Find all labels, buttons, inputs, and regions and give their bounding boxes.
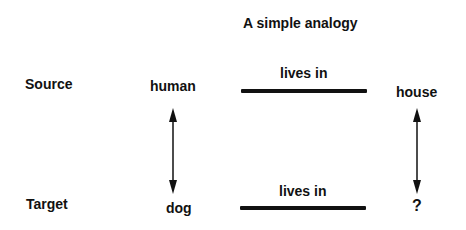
- source-relation-line: [241, 89, 367, 93]
- double-arrow-icon: [410, 108, 424, 194]
- target-row-label: Target: [26, 196, 68, 212]
- source-relation-label: lives in: [280, 65, 327, 81]
- diagram-title: A simple analogy: [243, 15, 358, 31]
- target-relation-label: lives in: [279, 183, 326, 199]
- target-relation-line: [240, 206, 366, 210]
- source-object: house: [396, 84, 437, 100]
- source-subject: human: [150, 78, 196, 94]
- target-object-unknown: ?: [412, 198, 422, 214]
- target-subject: dog: [166, 200, 192, 216]
- double-arrow-icon: [166, 108, 180, 194]
- source-row-label: Source: [25, 76, 72, 92]
